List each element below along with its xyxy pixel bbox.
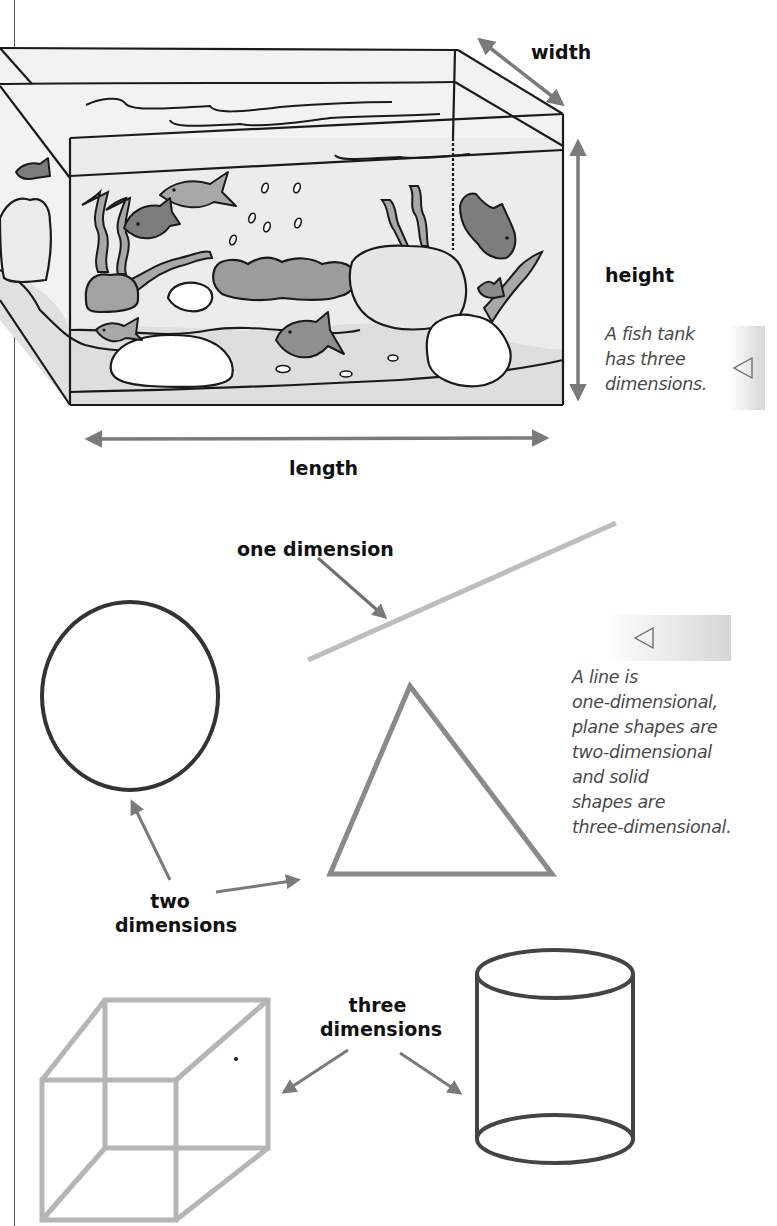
label-line: three xyxy=(320,993,435,1017)
caption-line: two-dimensional xyxy=(572,740,731,765)
cube-shape xyxy=(42,1000,268,1220)
width-label: width xyxy=(531,40,591,64)
fish-tank-caption: A fish tank has three dimensions. xyxy=(605,322,707,397)
shapes-illustration xyxy=(0,466,777,1226)
three-dimensions-label: three dimensions xyxy=(320,993,435,1041)
caption-line: three-dimensional. xyxy=(572,815,731,840)
label-line: dimensions xyxy=(115,913,225,937)
caption-line: shapes are xyxy=(572,790,731,815)
left-pointing-triangle-icon xyxy=(633,626,655,650)
fish-tank-illustration xyxy=(0,0,777,470)
caption-line: has three xyxy=(605,347,707,372)
caption-line: A line is xyxy=(572,665,731,690)
height-label: height xyxy=(605,263,674,287)
caption-line: plane shapes are xyxy=(572,715,731,740)
one-dimension-label: one dimension xyxy=(237,537,394,561)
caption-line: dimensions. xyxy=(605,372,707,397)
shapes-caption: A line is one-dimensional, plane shapes … xyxy=(572,665,731,840)
circle-shape xyxy=(42,602,218,790)
caption-line: one-dimensional, xyxy=(572,690,731,715)
length-arrow xyxy=(88,438,546,439)
two-dimensions-label: two dimensions xyxy=(115,889,225,937)
caption-line: and solid xyxy=(572,765,731,790)
label-line: dimensions xyxy=(320,1017,435,1041)
left-pointing-triangle-icon xyxy=(732,356,754,380)
caption-marker-box xyxy=(728,326,765,410)
cylinder-shape xyxy=(477,950,633,1163)
dimensions-figure: width height length A fish tank has thre… xyxy=(0,0,777,1226)
label-line: two xyxy=(115,889,225,913)
triangle-shape xyxy=(330,686,552,874)
caption-line: A fish tank xyxy=(605,322,707,347)
caption-marker-box xyxy=(605,615,731,661)
